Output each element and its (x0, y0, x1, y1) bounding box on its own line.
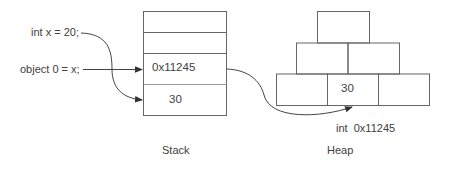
arrow-int-to-stack-value (81, 33, 142, 100)
heap-block-bot-right (379, 74, 430, 106)
heap-cell-value: 30 (341, 83, 354, 95)
stack-label: Stack (162, 145, 190, 156)
arrow-ref-to-heap (227, 69, 352, 115)
stack-cell-reference: 0x11245 (152, 62, 195, 74)
stack-cell-value: 30 (169, 94, 182, 106)
code-line-int: int x = 20; (31, 27, 79, 38)
heap-block-mid-right (348, 43, 400, 74)
heap-annotation: int 0x11245 (336, 123, 395, 134)
code-line-object: object 0 = x; (20, 64, 80, 75)
heap-label: Heap (327, 145, 353, 156)
heap-block-bot-left (277, 74, 328, 106)
heap-block-mid-left (297, 43, 349, 74)
heap-block-top (318, 12, 370, 44)
